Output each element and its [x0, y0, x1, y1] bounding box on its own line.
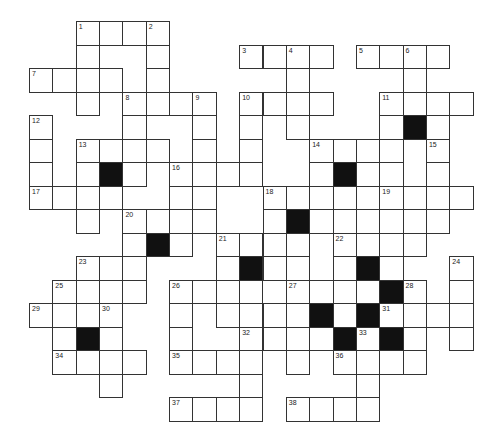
letter-cell[interactable]: [99, 21, 123, 46]
letter-cell[interactable]: [309, 327, 333, 352]
letter-cell[interactable]: 34: [52, 350, 76, 375]
letter-cell[interactable]: [99, 280, 123, 305]
letter-cell[interactable]: [403, 327, 427, 352]
letter-cell[interactable]: [286, 350, 310, 375]
letter-cell[interactable]: [403, 92, 427, 117]
letter-cell[interactable]: [146, 209, 170, 234]
letter-cell[interactable]: [403, 233, 427, 258]
letter-cell[interactable]: [76, 350, 100, 375]
letter-cell[interactable]: [286, 233, 310, 258]
letter-cell[interactable]: 25: [52, 280, 76, 305]
letter-cell[interactable]: [449, 327, 473, 352]
letter-cell[interactable]: [403, 209, 427, 234]
letter-cell[interactable]: 32: [239, 327, 263, 352]
letter-cell[interactable]: [333, 186, 357, 211]
letter-cell[interactable]: [333, 256, 357, 281]
letter-cell[interactable]: [263, 45, 287, 70]
letter-cell[interactable]: [239, 397, 263, 422]
letter-cell[interactable]: [356, 162, 380, 187]
letter-cell[interactable]: [76, 45, 100, 70]
letter-cell[interactable]: 31: [379, 303, 403, 328]
letter-cell[interactable]: [379, 162, 403, 187]
letter-cell[interactable]: [333, 139, 357, 164]
letter-cell[interactable]: 21: [216, 233, 240, 258]
letter-cell[interactable]: 13: [76, 139, 100, 164]
letter-cell[interactable]: 1: [76, 21, 100, 46]
letter-cell[interactable]: [333, 280, 357, 305]
letter-cell[interactable]: [286, 68, 310, 93]
letter-cell[interactable]: [356, 350, 380, 375]
letter-cell[interactable]: 37: [169, 397, 193, 422]
letter-cell[interactable]: [333, 209, 357, 234]
letter-cell[interactable]: [379, 115, 403, 140]
letter-cell[interactable]: [449, 280, 473, 305]
letter-cell[interactable]: [122, 350, 146, 375]
letter-cell[interactable]: [403, 303, 427, 328]
letter-cell[interactable]: [99, 139, 123, 164]
letter-cell[interactable]: 3: [239, 45, 263, 70]
letter-cell[interactable]: [29, 139, 53, 164]
letter-cell[interactable]: 4: [286, 45, 310, 70]
letter-cell[interactable]: 20: [122, 209, 146, 234]
letter-cell[interactable]: [122, 256, 146, 281]
letter-cell[interactable]: [52, 68, 76, 93]
letter-cell[interactable]: [99, 327, 123, 352]
letter-cell[interactable]: [309, 397, 333, 422]
letter-cell[interactable]: [76, 280, 100, 305]
letter-cell[interactable]: [356, 233, 380, 258]
letter-cell[interactable]: [192, 350, 216, 375]
letter-cell[interactable]: [356, 397, 380, 422]
letter-cell[interactable]: 2: [146, 21, 170, 46]
letter-cell[interactable]: [309, 162, 333, 187]
letter-cell[interactable]: [192, 139, 216, 164]
letter-cell[interactable]: [379, 139, 403, 164]
letter-cell[interactable]: [146, 139, 170, 164]
letter-cell[interactable]: [263, 92, 287, 117]
letter-cell[interactable]: 22: [333, 233, 357, 258]
letter-cell[interactable]: 5: [356, 45, 380, 70]
letter-cell[interactable]: [192, 162, 216, 187]
letter-cell[interactable]: [379, 45, 403, 70]
letter-cell[interactable]: [263, 209, 287, 234]
letter-cell[interactable]: [192, 280, 216, 305]
letter-cell[interactable]: [309, 280, 333, 305]
letter-cell[interactable]: [309, 209, 333, 234]
letter-cell[interactable]: [76, 186, 100, 211]
letter-cell[interactable]: 18: [263, 186, 287, 211]
letter-cell[interactable]: 10: [239, 92, 263, 117]
letter-cell[interactable]: 14: [309, 139, 333, 164]
letter-cell[interactable]: [356, 374, 380, 399]
letter-cell[interactable]: [239, 162, 263, 187]
letter-cell[interactable]: [333, 397, 357, 422]
letter-cell[interactable]: [192, 397, 216, 422]
letter-cell[interactable]: [309, 186, 333, 211]
letter-cell[interactable]: [356, 209, 380, 234]
letter-cell[interactable]: 30: [99, 303, 123, 328]
letter-cell[interactable]: [239, 115, 263, 140]
letter-cell[interactable]: [76, 162, 100, 187]
letter-cell[interactable]: [52, 186, 76, 211]
letter-cell[interactable]: [146, 68, 170, 93]
letter-cell[interactable]: [286, 92, 310, 117]
letter-cell[interactable]: [239, 139, 263, 164]
letter-cell[interactable]: [169, 92, 193, 117]
letter-cell[interactable]: [122, 162, 146, 187]
letter-cell[interactable]: 8: [122, 92, 146, 117]
letter-cell[interactable]: [29, 162, 53, 187]
letter-cell[interactable]: [52, 327, 76, 352]
letter-cell[interactable]: 27: [286, 280, 310, 305]
letter-cell[interactable]: [52, 303, 76, 328]
letter-cell[interactable]: [263, 303, 287, 328]
letter-cell[interactable]: 24: [449, 256, 473, 281]
letter-cell[interactable]: [99, 68, 123, 93]
letter-cell[interactable]: [403, 186, 427, 211]
letter-cell[interactable]: 19: [379, 186, 403, 211]
letter-cell[interactable]: [216, 162, 240, 187]
letter-cell[interactable]: [286, 303, 310, 328]
letter-cell[interactable]: [403, 68, 427, 93]
letter-cell[interactable]: [216, 350, 240, 375]
letter-cell[interactable]: [426, 162, 450, 187]
letter-cell[interactable]: [379, 256, 403, 281]
letter-cell[interactable]: 17: [29, 186, 53, 211]
letter-cell[interactable]: [286, 256, 310, 281]
